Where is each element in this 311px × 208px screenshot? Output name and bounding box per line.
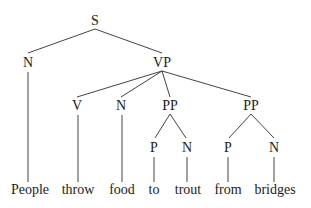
word-throw: throw — [62, 182, 96, 197]
parse-tree: S N VP V N PP PP P N P N People throw fo… — [0, 0, 311, 208]
node-s: S — [91, 13, 99, 28]
node-vp: VP — [153, 55, 171, 70]
word-from: from — [214, 182, 241, 197]
word-food: food — [109, 182, 135, 197]
edge-pp2-n — [251, 114, 274, 138]
node-pp-second: PP — [243, 98, 259, 113]
edge-vp-n — [121, 71, 162, 97]
node-p-second: P — [224, 140, 232, 155]
tree-edges — [28, 29, 274, 182]
node-pp-first: PP — [162, 98, 178, 113]
tree-nodes: S N VP V N PP PP P N P N — [23, 13, 279, 155]
node-n-object: N — [116, 98, 126, 113]
word-trout: trout — [175, 182, 202, 197]
tree-words: People throw food to trout from bridges — [11, 182, 296, 197]
edge-pp2-p — [229, 114, 251, 138]
edge-vp-v — [77, 71, 162, 97]
word-to: to — [149, 182, 160, 197]
node-n-bridges: N — [269, 140, 279, 155]
node-v: V — [72, 98, 82, 113]
word-bridges: bridges — [254, 182, 295, 197]
edge-s-vp — [95, 29, 162, 53]
edge-vp-pp2 — [162, 71, 251, 97]
word-people: People — [11, 182, 49, 197]
edge-pp1-p — [155, 114, 170, 138]
node-n-subject: N — [23, 55, 33, 70]
edge-pp1-n — [170, 114, 186, 138]
node-p-first: P — [150, 140, 158, 155]
edge-vp-pp1 — [162, 71, 170, 97]
node-n-trout: N — [182, 140, 192, 155]
edge-s-n — [28, 29, 95, 53]
